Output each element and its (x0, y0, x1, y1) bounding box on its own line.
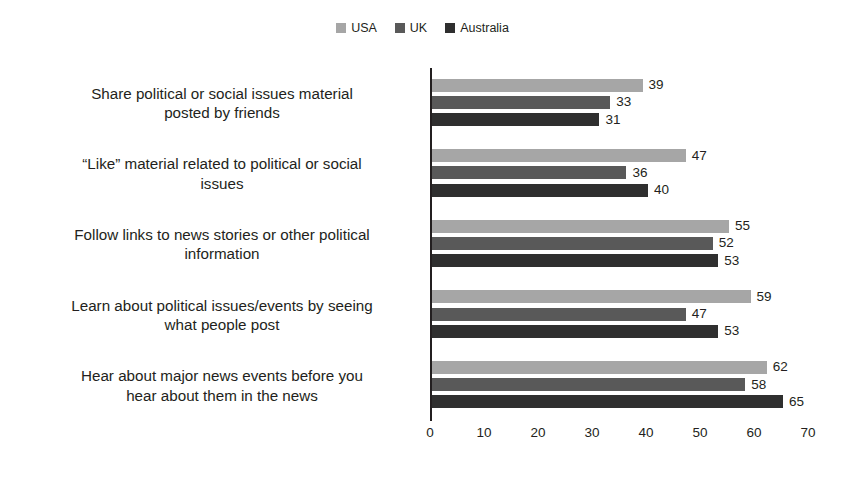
bar-group: 393331 (432, 68, 822, 139)
x-axis-tick-label: 30 (584, 426, 599, 440)
category-axis-labels: Share political or social issues materia… (20, 68, 424, 421)
bar-usa[interactable] (432, 290, 751, 303)
bar-group: 625865 (432, 350, 822, 421)
bar-australia[interactable] (432, 395, 783, 408)
bar-value-label: 53 (718, 325, 739, 339)
bar-row: 65 (432, 395, 822, 408)
bar-value-label: 36 (626, 166, 647, 180)
category-label-line: Hear about major news events before you (20, 366, 424, 385)
bar-uk[interactable] (432, 237, 713, 250)
x-axis-tick-label: 10 (476, 426, 491, 440)
bar-value-label: 31 (599, 113, 620, 127)
x-axis-tick-label: 60 (746, 426, 761, 440)
bar-value-label: 47 (686, 307, 707, 321)
category-label-line: posted by friends (20, 103, 424, 122)
bar-uk[interactable] (432, 166, 626, 179)
bar-usa[interactable] (432, 220, 729, 233)
category-label: Learn about political issues/events by s… (20, 280, 424, 351)
bar-australia[interactable] (432, 113, 599, 126)
bar-usa[interactable] (432, 149, 686, 162)
category-label-line: Learn about political issues/events by s… (20, 296, 424, 315)
bar-australia[interactable] (432, 325, 718, 338)
category-label: “Like” material related to political or … (20, 139, 424, 210)
category-label-line: information (20, 244, 424, 263)
bar-row: 39 (432, 79, 822, 92)
category-label-line: Follow links to news stories or other po… (20, 225, 424, 244)
bar-row: 40 (432, 184, 822, 197)
bar-australia[interactable] (432, 254, 718, 267)
x-axis-tick-label: 70 (800, 426, 815, 440)
category-label-line: hear about them in the news (20, 386, 424, 405)
bar-value-label: 62 (767, 361, 788, 375)
bar-uk[interactable] (432, 96, 610, 109)
bar-row: 36 (432, 166, 822, 179)
bar-row: 62 (432, 361, 822, 374)
bar-group: 473640 (432, 139, 822, 210)
bar-value-label: 40 (648, 183, 669, 197)
bar-row: 58 (432, 378, 822, 391)
bar-row: 52 (432, 237, 822, 250)
x-axis-tick-label: 0 (426, 426, 434, 440)
bar-value-label: 33 (610, 96, 631, 110)
category-label-line: “Like” material related to political or … (20, 154, 424, 173)
bar-value-label: 58 (745, 378, 766, 392)
bar-value-label: 65 (783, 395, 804, 409)
x-axis-tick-label: 40 (638, 426, 653, 440)
bar-row: 33 (432, 96, 822, 109)
bar-chart: Share political or social issues materia… (0, 0, 845, 479)
bar-group: 594753 (432, 280, 822, 351)
bar-group: 555253 (432, 209, 822, 280)
x-axis-tick-label: 20 (530, 426, 545, 440)
category-label-line: issues (20, 174, 424, 193)
bar-value-label: 59 (751, 290, 772, 304)
bar-row: 53 (432, 254, 822, 267)
category-label: Share political or social issues materia… (20, 68, 424, 139)
category-label: Follow links to news stories or other po… (20, 209, 424, 280)
bar-row: 55 (432, 220, 822, 233)
x-axis-tick-label: 50 (692, 426, 707, 440)
category-label-line: Share political or social issues materia… (20, 84, 424, 103)
bar-usa[interactable] (432, 79, 643, 92)
bar-row: 53 (432, 325, 822, 338)
bar-row: 31 (432, 113, 822, 126)
bar-value-label: 47 (686, 149, 707, 163)
category-label: Hear about major news events before youh… (20, 350, 424, 421)
category-label-line: what people post (20, 315, 424, 334)
bar-row: 47 (432, 149, 822, 162)
bar-uk[interactable] (432, 308, 686, 321)
bar-value-label: 39 (643, 78, 664, 92)
bar-australia[interactable] (432, 184, 648, 197)
bar-uk[interactable] (432, 378, 745, 391)
bar-value-label: 52 (713, 237, 734, 251)
bar-plot-area: 393331473640555253594753625865 (432, 68, 822, 421)
bar-value-label: 53 (718, 254, 739, 268)
value-axis-ticks: 010203040506070 (430, 426, 808, 450)
bar-usa[interactable] (432, 361, 767, 374)
bar-row: 59 (432, 290, 822, 303)
bar-row: 47 (432, 308, 822, 321)
bar-value-label: 55 (729, 220, 750, 234)
